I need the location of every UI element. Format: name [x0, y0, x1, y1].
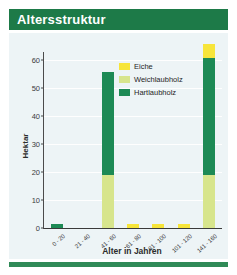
- card-title-banner: Altersstruktur: [9, 9, 228, 30]
- gridline: [44, 144, 222, 145]
- y-tick-mark: [41, 88, 44, 89]
- bar-segment[interactable]: [203, 58, 215, 175]
- bar-stack[interactable]: [51, 224, 63, 228]
- bar-segment[interactable]: [102, 175, 114, 228]
- bar-stack[interactable]: [178, 224, 190, 228]
- bar-stack[interactable]: [102, 72, 114, 228]
- gridline: [44, 172, 222, 173]
- y-tick-label: 10: [32, 196, 40, 205]
- chart-panel: Hektar 01020304050600 - 2021 - 4041 - 60…: [9, 33, 228, 259]
- legend-swatch-icon: [119, 76, 130, 83]
- y-tick-mark: [41, 228, 44, 229]
- y-tick-mark: [41, 172, 44, 173]
- y-tick-mark: [41, 116, 44, 117]
- bar-segment[interactable]: [152, 224, 164, 228]
- y-tick-mark: [41, 144, 44, 145]
- bottom-accent-bar: [9, 262, 228, 267]
- bar-segment[interactable]: [203, 175, 215, 228]
- gridline: [44, 200, 222, 201]
- legend-item-label: Eiche: [134, 62, 153, 71]
- bar-segment[interactable]: [127, 224, 139, 228]
- y-tick-label: 30: [32, 140, 40, 149]
- chart-legend: EicheWeichlaubholzHartlaubholz: [119, 61, 183, 98]
- legend-item[interactable]: Hartlaubholz: [119, 87, 183, 98]
- legend-item-label: Hartlaubholz: [134, 88, 176, 97]
- y-axis-title: Hektar: [21, 134, 30, 159]
- legend-item[interactable]: Eiche: [119, 61, 183, 72]
- legend-swatch-icon: [119, 89, 130, 96]
- legend-item-label: Weichlaubholz: [134, 75, 183, 84]
- chart-card: Altersstruktur Hektar 01020304050600 - 2…: [0, 0, 237, 275]
- gridline: [44, 116, 222, 117]
- legend-item[interactable]: Weichlaubholz: [119, 74, 183, 85]
- y-tick-label: 0: [36, 224, 40, 233]
- bar-stack[interactable]: [127, 224, 139, 228]
- legend-swatch-icon: [119, 63, 130, 70]
- y-tick-label: 20: [32, 168, 40, 177]
- y-tick-label: 40: [32, 112, 40, 121]
- bar-segment[interactable]: [203, 44, 215, 58]
- y-tick-label: 50: [32, 84, 40, 93]
- page-title: Altersstruktur: [9, 12, 106, 27]
- y-tick-mark: [41, 60, 44, 61]
- x-axis-title: Alter in Jahren: [43, 246, 221, 256]
- y-tick-label: 60: [32, 56, 40, 65]
- bar-segment[interactable]: [51, 224, 63, 228]
- y-tick-mark: [41, 200, 44, 201]
- bar-stack[interactable]: [203, 44, 215, 228]
- bar-stack[interactable]: [152, 224, 164, 228]
- bar-segment[interactable]: [178, 224, 190, 228]
- bar-segment[interactable]: [102, 72, 114, 175]
